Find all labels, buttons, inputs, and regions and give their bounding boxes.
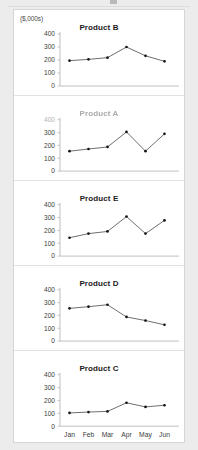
- x-tick-label: Jan: [64, 431, 75, 438]
- data-point-marker: [163, 133, 166, 136]
- data-point-marker: [144, 54, 147, 57]
- data-point-marker: [163, 404, 166, 407]
- y-tick-label: 400: [44, 286, 55, 293]
- x-tick-label: Feb: [83, 431, 95, 438]
- data-point-marker: [125, 215, 128, 218]
- chart-panel-1: ($,000s)Product B0100200300400: [14, 10, 184, 95]
- data-point-marker: [125, 131, 128, 134]
- y-tick-label: 400: [44, 371, 55, 378]
- chart-panel-5: Product C0100200300400JanFebMarAprMayJun: [14, 350, 184, 443]
- data-point-marker: [68, 307, 71, 310]
- data-point-marker: [87, 411, 90, 414]
- data-point-marker: [125, 46, 128, 49]
- top-nub-marker: [110, 0, 117, 4]
- series-line: [70, 217, 165, 238]
- chart-panel-4: Product D0100200300400: [14, 265, 184, 350]
- y-tick-label: 400: [44, 116, 55, 123]
- data-point-marker: [106, 410, 109, 413]
- series-line: [70, 305, 165, 325]
- x-tick-label: Mar: [102, 431, 114, 438]
- screenshot-root: ($,000s)Product B0100200300400Product A0…: [0, 0, 198, 450]
- x-tick-label: Apr: [121, 431, 132, 439]
- plot-area-3: 0100200300400: [14, 181, 184, 265]
- data-point-marker: [163, 60, 166, 63]
- top-divider-rule: [8, 6, 190, 7]
- data-point-marker: [106, 56, 109, 59]
- y-tick-label: 300: [44, 299, 55, 306]
- y-tick-label: 100: [44, 69, 55, 76]
- y-tick-label: 300: [44, 43, 55, 50]
- data-point-marker: [144, 150, 147, 153]
- y-tick-label: 300: [44, 384, 55, 391]
- data-point-marker: [68, 412, 71, 415]
- y-tick-label: 100: [44, 155, 55, 162]
- data-point-marker: [106, 230, 109, 233]
- data-point-marker: [163, 323, 166, 326]
- data-point-marker: [87, 148, 90, 151]
- y-tick-label: 100: [44, 325, 55, 332]
- y-tick-label: 200: [44, 56, 55, 63]
- x-tick-label: May: [139, 431, 152, 439]
- data-point-marker: [106, 146, 109, 149]
- data-point-marker: [106, 303, 109, 306]
- y-tick-label: 400: [44, 201, 55, 208]
- y-tick-label: 100: [44, 240, 55, 247]
- data-point-marker: [87, 58, 90, 61]
- y-tick-label: 0: [51, 168, 55, 175]
- y-tick-label: 200: [44, 312, 55, 319]
- chart-panel-3: Product E0100200300400: [14, 180, 184, 265]
- y-tick-label: 300: [44, 214, 55, 221]
- series-line: [70, 403, 165, 413]
- chart-panel-2: Product A0100200300400: [14, 95, 184, 180]
- x-tick-label: Jun: [159, 431, 170, 438]
- data-point-marker: [87, 232, 90, 235]
- y-tick-label: 200: [44, 142, 55, 149]
- data-point-marker: [144, 319, 147, 322]
- data-point-marker: [125, 401, 128, 404]
- plot-area-5: 0100200300400JanFebMarAprMayJun: [14, 351, 184, 443]
- y-tick-label: 300: [44, 129, 55, 136]
- plot-area-2: 0100200300400: [14, 96, 184, 180]
- y-tick-label: 0: [51, 423, 55, 430]
- data-point-marker: [144, 406, 147, 409]
- y-tick-label: 0: [51, 82, 55, 89]
- data-point-marker: [163, 219, 166, 222]
- y-tick-label: 0: [51, 338, 55, 345]
- y-tick-label: 200: [44, 397, 55, 404]
- series-line: [70, 132, 165, 151]
- charts-panel: ($,000s)Product B0100200300400Product A0…: [13, 9, 185, 443]
- charts-stack: ($,000s)Product B0100200300400Product A0…: [14, 10, 184, 443]
- y-tick-label: 100: [44, 410, 55, 417]
- y-tick-label: 400: [44, 30, 55, 37]
- data-point-marker: [144, 232, 147, 235]
- plot-area-4: 0100200300400: [14, 266, 184, 350]
- data-point-marker: [68, 59, 71, 62]
- plot-area-1: 0100200300400: [14, 10, 184, 95]
- series-line: [70, 47, 165, 61]
- data-point-marker: [87, 305, 90, 308]
- data-point-marker: [125, 316, 128, 319]
- data-point-marker: [68, 236, 71, 239]
- data-point-marker: [68, 150, 71, 153]
- y-tick-label: 200: [44, 227, 55, 234]
- top-edge-sliver: [0, 0, 198, 8]
- y-tick-label: 0: [51, 253, 55, 260]
